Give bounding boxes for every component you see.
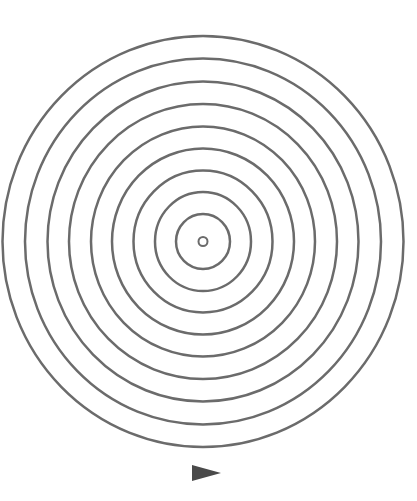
- diagram-background: [0, 0, 417, 501]
- concentric-rings-diagram: [0, 0, 417, 501]
